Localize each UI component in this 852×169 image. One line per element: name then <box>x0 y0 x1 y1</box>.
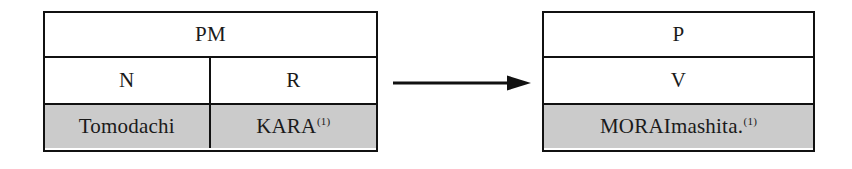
source-function-label-n: N <box>119 70 134 91</box>
source-function-cell-noun: N <box>45 58 211 103</box>
target-phrase-cell: P <box>544 13 813 56</box>
target-phrase-row: P <box>544 13 813 58</box>
target-phrase-label: P <box>673 24 685 45</box>
source-form-label-kara: KARA <box>256 116 316 137</box>
source-form-label-tomodachi: Tomodachi <box>79 116 175 137</box>
target-function-cell: V <box>544 58 813 103</box>
target-form-cell-moraimashita: MORAImashita.(1) <box>544 105 813 148</box>
source-phrase-label: PM <box>195 24 226 45</box>
source-phrase-cell: PM <box>45 13 376 56</box>
structure-transformation-diagram: PM N R Tomodachi KARA(1) P V MORAImashit… <box>0 0 852 169</box>
source-form-cell-tomodachi: Tomodachi <box>45 105 211 148</box>
source-form-cell-kara: KARA(1) <box>211 105 377 148</box>
source-form-row: Tomodachi KARA(1) <box>45 105 376 148</box>
right-arrow-icon <box>391 70 531 96</box>
target-form-label-moraimashita: MORAImashita. <box>600 116 743 137</box>
source-function-cell-relator: R <box>211 58 377 103</box>
target-function-row: V <box>544 58 813 105</box>
target-structure-table: P V MORAImashita.(1) <box>542 11 815 152</box>
source-function-label-r: R <box>286 70 300 91</box>
target-function-label-v: V <box>671 70 686 91</box>
source-structure-table: PM N R Tomodachi KARA(1) <box>43 11 378 152</box>
source-function-row: N R <box>45 58 376 105</box>
target-form-row: MORAImashita.(1) <box>544 105 813 148</box>
source-phrase-row: PM <box>45 13 376 58</box>
